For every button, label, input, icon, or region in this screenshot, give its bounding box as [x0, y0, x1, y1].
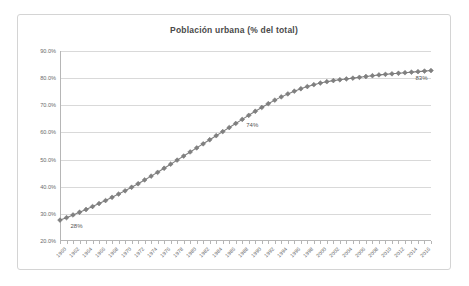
x-axis-tick-mark — [424, 241, 425, 244]
x-axis-tick-mark — [223, 241, 224, 244]
y-axis-tick-label: 40.0% — [40, 184, 56, 190]
x-axis-tick-mark — [73, 241, 74, 244]
y-axis-tick-label: 30.0% — [40, 211, 56, 217]
y-axis-tick-label: 60.0% — [40, 129, 56, 135]
x-axis-tick-mark — [275, 241, 276, 244]
x-axis-tick-label: 2000 — [315, 246, 327, 258]
x-axis-tick-label: 1990 — [250, 246, 262, 258]
x-axis-tick-mark — [379, 241, 380, 244]
x-axis-tick-mark — [60, 241, 61, 244]
x-axis-tick-mark — [125, 241, 126, 244]
y-axis-tick-label: 50.0% — [40, 157, 56, 163]
x-axis-tick-mark — [151, 241, 152, 244]
x-axis-tick-label: 1966 — [94, 246, 106, 258]
x-axis-tick-mark — [333, 241, 334, 244]
x-axis-tick-mark — [314, 241, 315, 244]
x-axis-tick-label: 1998 — [302, 246, 314, 258]
x-axis-tick-label: 2014 — [406, 246, 418, 258]
x-axis-tick-mark — [210, 241, 211, 244]
x-axis-tick-mark — [106, 241, 107, 244]
x-axis-tick-label: 1968 — [107, 246, 119, 258]
y-axis-tick-label: 90.0% — [40, 48, 56, 54]
x-axis-tick-mark — [80, 241, 81, 244]
x-axis-tick-mark — [353, 241, 354, 244]
data-point-label: 83% — [415, 75, 427, 81]
x-axis-tick-label: 1980 — [185, 246, 197, 258]
series-line-urban-population — [60, 51, 431, 241]
x-axis-tick-mark — [346, 241, 347, 244]
x-axis-tick-mark — [216, 241, 217, 244]
plot-area: 20.0%30.0%40.0%50.0%60.0%70.0%80.0%90.0%… — [60, 51, 431, 241]
x-axis-tick-mark — [86, 241, 87, 244]
x-axis-tick-mark — [190, 241, 191, 244]
x-axis-tick-mark — [385, 241, 386, 244]
x-axis-tick-label: 2012 — [393, 246, 405, 258]
data-point-label: 74% — [246, 122, 258, 128]
x-axis-tick-mark — [281, 241, 282, 244]
x-axis-tick-mark — [431, 241, 432, 244]
x-axis-tick-mark — [229, 241, 230, 244]
y-axis-tick-label: 20.0% — [40, 238, 56, 244]
x-axis-tick-label: 1994 — [276, 246, 288, 258]
x-axis-tick-label: 1982 — [198, 246, 210, 258]
x-axis-tick-mark — [398, 241, 399, 244]
x-axis-tick-mark — [67, 241, 68, 244]
x-axis-tick-mark — [366, 241, 367, 244]
x-axis-tick-label: 2016 — [419, 246, 431, 258]
chart-frame: Población urbana (% del total) 20.0%30.0… — [17, 14, 451, 270]
x-axis-tick-mark — [145, 241, 146, 244]
x-axis-tick-label: 2010 — [380, 246, 392, 258]
x-axis-tick-mark — [327, 241, 328, 244]
x-axis-tick-mark — [132, 241, 133, 244]
x-axis-tick-mark — [320, 241, 321, 244]
x-axis-tick-label: 2004 — [341, 246, 353, 258]
x-axis-tick-mark — [119, 241, 120, 244]
x-axis-tick-mark — [138, 241, 139, 244]
x-axis-tick-label: 1986 — [224, 246, 236, 258]
x-axis-tick-mark — [171, 241, 172, 244]
x-axis-tick-mark — [93, 241, 94, 244]
x-axis-tick-label: 1984 — [211, 246, 223, 258]
x-axis-tick-mark — [405, 241, 406, 244]
x-axis-tick-label: 2006 — [354, 246, 366, 258]
x-axis-tick-mark — [288, 241, 289, 244]
x-axis-tick-mark — [418, 241, 419, 244]
x-axis-tick-label: 2008 — [367, 246, 379, 258]
x-axis-tick-label: 1978 — [172, 246, 184, 258]
x-axis-tick-mark — [164, 241, 165, 244]
x-axis-tick-mark — [307, 241, 308, 244]
x-axis-tick-label: 1970 — [120, 246, 132, 258]
x-axis-tick-label: 1962 — [68, 246, 80, 258]
x-axis-tick-mark — [242, 241, 243, 244]
chart-title: Población urbana (% del total) — [18, 25, 450, 35]
x-axis-tick-mark — [197, 241, 198, 244]
x-axis-tick-label: 1964 — [81, 246, 93, 258]
x-axis-tick-mark — [372, 241, 373, 244]
x-axis-tick-mark — [255, 241, 256, 244]
y-axis-tick-label: 70.0% — [40, 102, 56, 108]
x-axis-tick-mark — [249, 241, 250, 244]
x-axis-tick-label: 2002 — [328, 246, 340, 258]
x-axis-tick-label: 1960 — [55, 246, 67, 258]
x-axis-tick-mark — [340, 241, 341, 244]
x-axis-tick-mark — [177, 241, 178, 244]
x-axis-tick-label: 1988 — [237, 246, 249, 258]
x-axis-tick-label: 1972 — [133, 246, 145, 258]
x-axis-tick-mark — [262, 241, 263, 244]
x-axis-tick-mark — [184, 241, 185, 244]
x-axis-tick-mark — [99, 241, 100, 244]
x-axis-tick-mark — [203, 241, 204, 244]
x-axis-tick-mark — [236, 241, 237, 244]
x-axis-tick-label: 1992 — [263, 246, 275, 258]
x-axis-tick-label: 1974 — [146, 246, 158, 258]
x-axis-tick-label: 1996 — [289, 246, 301, 258]
x-axis-tick-mark — [392, 241, 393, 244]
x-axis-tick-label: 1976 — [159, 246, 171, 258]
x-axis-tick-mark — [294, 241, 295, 244]
x-axis-tick-mark — [158, 241, 159, 244]
x-axis-tick-mark — [268, 241, 269, 244]
x-axis-tick-mark — [359, 241, 360, 244]
x-axis-tick-mark — [301, 241, 302, 244]
y-axis-tick-label: 80.0% — [40, 75, 56, 81]
x-axis-tick-mark — [112, 241, 113, 244]
